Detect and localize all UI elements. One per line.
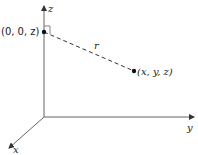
general-point-label: (x, y, z) [137, 66, 173, 77]
x-axis-label: x [13, 144, 19, 155]
distance-segment-r [44, 32, 134, 71]
coordinate-diagram: z y x (0, 0, z) (x, y, z) r [0, 0, 198, 155]
general-point-dot [132, 69, 136, 73]
z-axis-label: z [47, 3, 54, 14]
axis-point-dot [42, 30, 46, 34]
axis-point-label: (0, 0, z) [1, 26, 40, 37]
y-axis-label: y [186, 122, 193, 133]
segment-r-label: r [94, 40, 100, 51]
